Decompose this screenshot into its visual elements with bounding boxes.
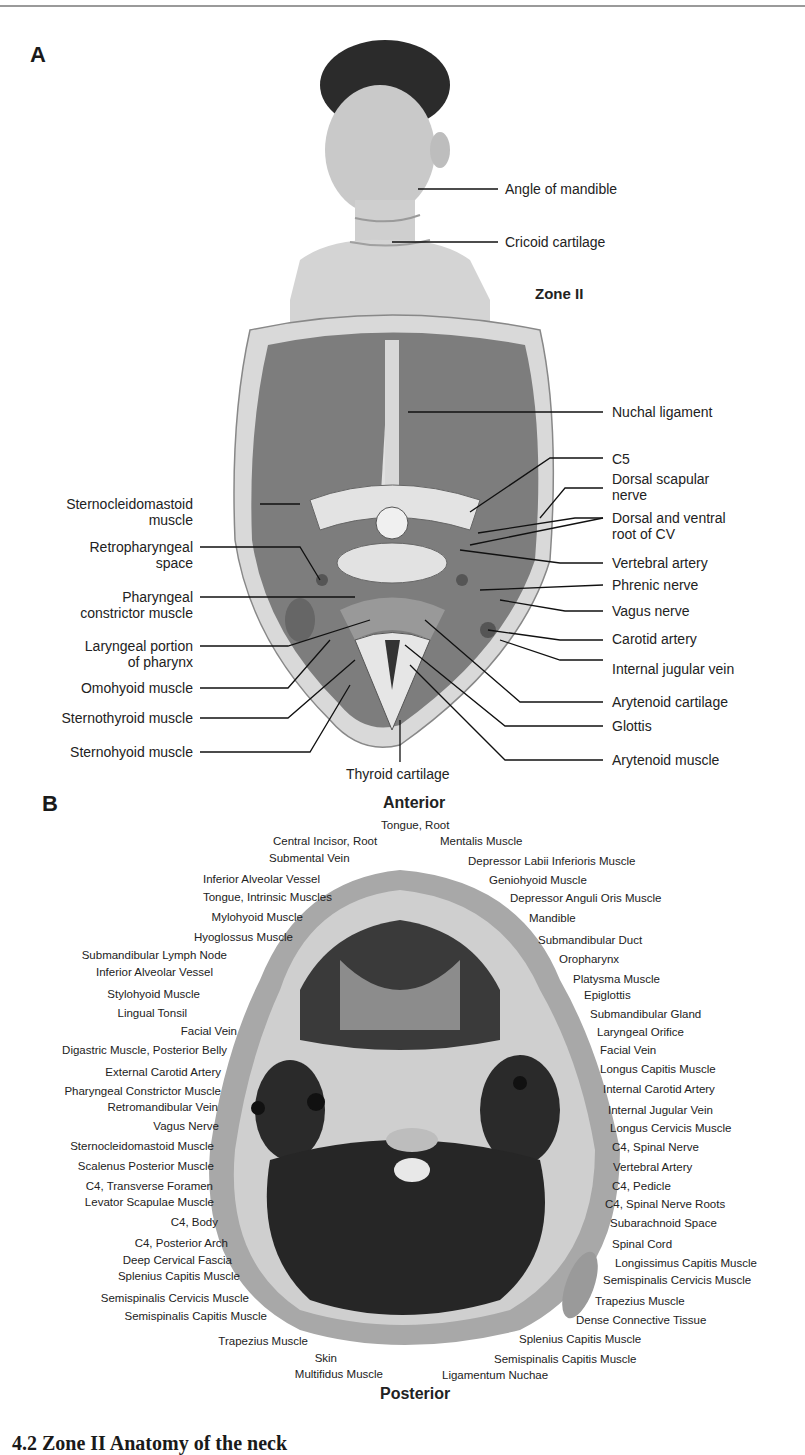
panel-b-letter: B (42, 791, 58, 817)
panel-a-letter: A (30, 42, 46, 68)
label-b-right-6: Platysma Muscle (573, 973, 660, 986)
label-b-right-11: Longus Capitis Muscle (600, 1063, 716, 1076)
label-sternocleidomastoid-muscle: Sternocleidomastoid muscle (66, 496, 193, 528)
label-b-left-5: Inferior Alveolar Vessel (96, 966, 213, 979)
zone-ii-label: Zone II (535, 286, 583, 302)
label-b-right-26: Semispinalis Capitis Muscle (494, 1353, 637, 1366)
label-b-left-14: Sternocleidomastoid Muscle (70, 1140, 214, 1153)
label-dorsal-scapular-nerve: Dorsal scapular nerve (612, 471, 709, 503)
label-c5: C5 (612, 451, 630, 467)
label-b-left-1: Tongue, Intrinsic Muscles (203, 891, 332, 904)
label-vertebral-artery: Vertebral artery (612, 555, 708, 571)
label-b-left-21: Splenius Capitis Muscle (118, 1270, 240, 1283)
label-b-right-24: Dense Connective Tissue (576, 1314, 706, 1327)
label-b-left-8: Facial Vein (181, 1025, 237, 1038)
label-glottis: Glottis (612, 718, 652, 734)
label-b-left-6: Stylohyoid Muscle (107, 988, 200, 1001)
label-phrenic-nerve: Phrenic nerve (612, 577, 698, 593)
label-b-right-2: Depressor Anguli Oris Muscle (510, 892, 661, 905)
label-b-right-5: Oropharynx (559, 953, 619, 966)
label-b-right-17: C4, Pedicle (612, 1180, 671, 1193)
label-b-left-12: Retromandibular Vein (107, 1101, 218, 1114)
label-b-left-16: C4, Transverse Foramen (86, 1180, 213, 1193)
label-b-right-8: Submandibular Gland (590, 1008, 701, 1021)
label-laryngeal-portion-pharynx: Laryngeal portion of pharynx (85, 638, 193, 670)
label-b-left-18: C4, Body (171, 1216, 218, 1229)
figure-caption-partial: 4.2 Zone II Anatomy of the neck (12, 1432, 287, 1455)
label-b-left-15: Scalenus Posterior Muscle (78, 1160, 214, 1173)
neck-cross-section-a (234, 315, 553, 747)
label-b-left-19: C4, Posterior Arch (135, 1237, 228, 1250)
label-b-right-27: Ligamentum Nuchae (442, 1369, 548, 1382)
label-b-left-17: Levator Scapulae Muscle (85, 1196, 214, 1209)
label-b-left-20: Deep Cervical Fascia (123, 1254, 232, 1267)
label-arytenoid-cartilage: Arytenoid cartilage (612, 694, 728, 710)
label-b-left-24: Trapezius Muscle (218, 1335, 308, 1348)
label-retropharyngeal-space: Retropharyngeal space (89, 539, 193, 571)
label-b-left-13: Vagus Nerve (153, 1120, 219, 1133)
label-b-left-25: Skin (315, 1352, 337, 1365)
label-b-right-19: Subarachnoid Space (610, 1217, 717, 1230)
label-b-left-22: Semispinalis Cervicis Muscle (101, 1292, 249, 1305)
label-b-right-14: Longus Cervicis Muscle (610, 1122, 731, 1135)
label-central-incisor-root: Central Incisor, Root (273, 835, 377, 848)
label-nuchal-ligament: Nuchal ligament (612, 404, 712, 420)
label-sternothyroid-muscle: Sternothyroid muscle (61, 710, 193, 726)
label-submental-vein: Submental Vein (269, 852, 350, 865)
label-b-left-9: Digastric Muscle, Posterior Belly (62, 1044, 227, 1057)
label-dorsal-ventral-root: Dorsal and ventral root of CV (612, 510, 726, 542)
label-b-right-22: Semispinalis Cervicis Muscle (603, 1274, 751, 1287)
label-omohyoid-muscle: Omohyoid muscle (81, 680, 193, 696)
label-carotid-artery: Carotid artery (612, 631, 697, 647)
label-b-right-9: Laryngeal Orifice (597, 1026, 684, 1039)
label-b-right-25: Splenius Capitis Muscle (519, 1333, 641, 1346)
label-arytenoid-muscle: Arytenoid muscle (612, 752, 719, 768)
label-b-left-26: Multifidus Muscle (295, 1368, 383, 1381)
label-b-right-3: Mandible (529, 912, 576, 925)
label-b-right-0: Depressor Labii Inferioris Muscle (468, 855, 635, 868)
label-mentalis-muscle: Mentalis Muscle (440, 835, 522, 848)
label-b-left-2: Mylohyoid Muscle (212, 911, 303, 924)
orientation-posterior: Posterior (380, 1386, 450, 1402)
label-b-right-15: C4, Spinal Nerve (612, 1141, 699, 1154)
label-b-left-10: External Carotid Artery (105, 1066, 221, 1079)
label-b-left-11: Pharyngeal Constrictor Muscle (64, 1085, 221, 1098)
label-b-right-1: Geniohyoid Muscle (489, 874, 587, 887)
label-b-left-0: Inferior Alveolar Vessel (203, 873, 320, 886)
label-b-right-12: Internal Carotid Artery (603, 1083, 715, 1096)
label-cricoid-cartilage: Cricoid cartilage (505, 234, 605, 250)
child-figure-illustration (290, 40, 490, 330)
label-b-left-4: Submandibular Lymph Node (82, 949, 227, 962)
label-internal-jugular-vein: Internal jugular vein (612, 661, 734, 677)
label-sternohyoid-muscle: Sternohyoid muscle (70, 744, 193, 760)
label-vagus-nerve: Vagus nerve (612, 603, 690, 619)
label-angle-of-mandible: Angle of mandible (505, 181, 617, 197)
label-b-left-23: Semispinalis Capitis Muscle (124, 1310, 267, 1323)
label-pharyngeal-constrictor: Pharyngeal constrictor muscle (80, 589, 193, 621)
label-b-right-20: Spinal Cord (612, 1238, 672, 1251)
label-b-right-7: Epiglottis (584, 989, 631, 1002)
label-b-right-13: Internal Jugular Vein (608, 1104, 713, 1117)
label-b-left-7: Lingual Tonsil (118, 1007, 187, 1020)
label-b-right-23: Trapezius Muscle (595, 1295, 685, 1308)
label-b-left-3: Hyoglossus Muscle (194, 931, 293, 944)
label-b-right-10: Facial Vein (600, 1044, 656, 1057)
label-b-right-18: C4, Spinal Nerve Roots (605, 1198, 725, 1211)
label-tongue-root: Tongue, Root (381, 819, 449, 832)
orientation-anterior: Anterior (383, 795, 445, 811)
label-b-right-21: Longissimus Capitis Muscle (615, 1257, 757, 1270)
label-b-right-4: Submandibular Duct (538, 934, 642, 947)
label-b-right-16: Vertebral Artery (613, 1161, 692, 1174)
label-thyroid-cartilage: Thyroid cartilage (346, 766, 450, 782)
